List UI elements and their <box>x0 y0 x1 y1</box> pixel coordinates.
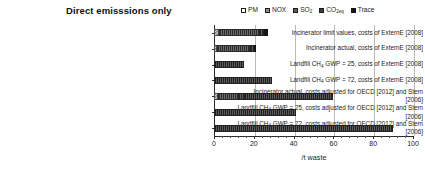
x-axis-line <box>214 136 414 137</box>
x-tick-label-20: 20 <box>250 140 258 147</box>
x-tick-major-0 <box>214 136 215 139</box>
x-tick-minor-68 <box>349 136 350 138</box>
x-tick-label-100: 100 <box>407 140 419 147</box>
bar-1[interactable] <box>214 29 268 36</box>
legend-swatch-trace-icon <box>351 8 356 13</box>
x-tick-minor-56 <box>325 136 326 138</box>
x-tick-label-80: 80 <box>369 140 377 147</box>
legend-item-nox[interactable]: NOX <box>265 7 286 14</box>
chart-legend: PMNOXSO2CO2eqTrace <box>241 7 374 14</box>
category-label-3: Landfill CH4 GWP = 25, costs of ExternE … <box>213 60 425 69</box>
x-tick-minor-84 <box>381 136 382 138</box>
legend-label-trace: Trace <box>358 7 375 14</box>
x-tick-major-100 <box>413 136 414 139</box>
bar-segment-co2 <box>244 93 334 100</box>
bar-segment-co2 <box>214 77 272 84</box>
x-tick-minor-36 <box>286 136 287 138</box>
x-tick-minor-76 <box>365 136 366 138</box>
x-tick-minor-8 <box>230 136 231 138</box>
x-tick-minor-52 <box>317 136 318 138</box>
chart-title: Direct emisssions only <box>66 5 172 16</box>
chart-figure: Direct emisssions only PMNOXSO2CO2eqTrac… <box>0 0 425 169</box>
legend-item-so2[interactable]: SO2 <box>293 7 312 14</box>
category-label-line: Landfill CH4 GWP = 25, costs of ExternE … <box>213 60 423 69</box>
x-tick-minor-64 <box>341 136 342 138</box>
legend-label-nox: NOX <box>272 7 286 14</box>
bar-segment-nox <box>219 29 259 36</box>
legend-item-pm[interactable]: PM <box>241 7 258 14</box>
x-tick-minor-32 <box>278 136 279 138</box>
legend-item-trace[interactable]: Trace <box>351 7 375 14</box>
x-tick-minor-88 <box>389 136 390 138</box>
bar-segment-co2 <box>214 61 244 68</box>
bar-4[interactable] <box>214 77 272 84</box>
x-tick-minor-96 <box>405 136 406 138</box>
x-tick-label-0: 0 <box>212 140 216 147</box>
x-tick-minor-48 <box>310 136 311 138</box>
x-tick-major-40 <box>294 136 295 139</box>
bar-segment-trace <box>254 45 256 52</box>
bar-segment-nox <box>218 93 238 100</box>
bar-segment-co2 <box>214 125 393 132</box>
x-tick-major-80 <box>373 136 374 139</box>
legend-swatch-nox-icon <box>265 8 270 13</box>
x-tick-minor-24 <box>262 136 263 138</box>
bar-7[interactable] <box>214 125 393 132</box>
x-tick-minor-4 <box>222 136 223 138</box>
x-tick-label-60: 60 <box>329 140 337 147</box>
legend-swatch-pm-icon <box>241 8 246 13</box>
legend-label-co2eq: CO2eq <box>326 7 344 14</box>
x-tick-minor-28 <box>270 136 271 138</box>
legend-label-so2: SO2 <box>300 7 312 14</box>
bar-segment-nox <box>217 45 250 52</box>
x-tick-major-20 <box>254 136 255 139</box>
legend-label-pm: PM <box>248 7 258 14</box>
bar-6[interactable] <box>214 109 296 116</box>
bar-3[interactable] <box>214 61 244 68</box>
legend-swatch-co2eq-icon <box>319 8 324 13</box>
x-axis-title: /t waste <box>214 153 414 162</box>
x-tick-minor-12 <box>238 136 239 138</box>
x-tick-minor-92 <box>397 136 398 138</box>
x-tick-minor-44 <box>302 136 303 138</box>
x-tick-minor-72 <box>357 136 358 138</box>
bar-2[interactable] <box>214 45 256 52</box>
legend-swatch-so2-icon <box>293 8 298 13</box>
x-tick-minor-16 <box>246 136 247 138</box>
bar-segment-co2 <box>214 109 296 116</box>
legend-item-co2eq[interactable]: CO2eq <box>319 7 344 14</box>
x-tick-major-60 <box>333 136 334 139</box>
bar-5[interactable] <box>214 93 333 100</box>
bar-segment-trace <box>264 29 268 36</box>
x-tick-label-40: 40 <box>290 140 298 147</box>
